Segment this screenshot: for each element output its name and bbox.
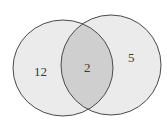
venn-diagram: 12 2 5 — [0, 0, 167, 125]
right-only-count: 5 — [128, 50, 135, 65]
left-only-count: 12 — [34, 64, 47, 79]
intersection-count: 2 — [84, 60, 91, 75]
